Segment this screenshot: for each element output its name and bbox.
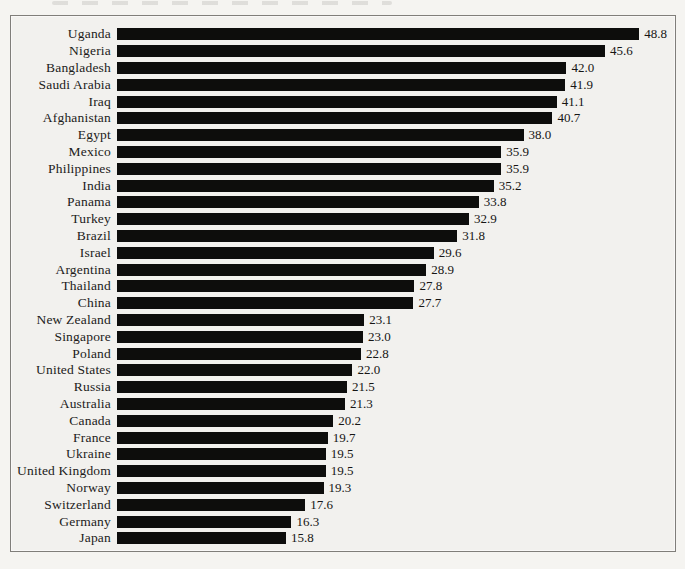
bar-track: 21.5 — [117, 379, 675, 395]
bar-row: China27.7 — [11, 295, 675, 312]
bar-row: Thailand27.8 — [11, 278, 675, 295]
bar — [117, 45, 605, 57]
bar-row: Turkey32.9 — [11, 211, 675, 228]
bar-track: 22.8 — [117, 346, 675, 362]
bar — [117, 448, 326, 460]
bar — [117, 230, 457, 242]
country-label: Iraq — [11, 94, 117, 110]
country-label: Germany — [11, 514, 117, 530]
country-label: Egypt — [11, 127, 117, 143]
bar-track: 41.1 — [117, 94, 675, 110]
bar-track: 27.8 — [117, 278, 675, 294]
country-label: Argentina — [11, 262, 117, 278]
country-label: France — [11, 430, 117, 446]
country-label: Turkey — [11, 211, 117, 227]
bar — [117, 482, 324, 494]
bar-track: 48.8 — [117, 26, 675, 42]
bar-track: 15.8 — [117, 530, 675, 546]
bar-track: 19.5 — [117, 463, 675, 479]
country-label: Nigeria — [11, 43, 117, 59]
value-label: 20.2 — [338, 413, 361, 429]
bar — [117, 314, 364, 326]
bar — [117, 432, 328, 444]
value-label: 40.7 — [557, 110, 580, 126]
bar — [117, 129, 524, 141]
bar — [117, 348, 361, 360]
bar — [117, 96, 557, 108]
bar-track: 19.5 — [117, 446, 675, 462]
bar — [117, 213, 469, 225]
bar-row: Egypt38.0 — [11, 127, 675, 144]
bar — [117, 381, 347, 393]
bar-row: Bangladesh42.0 — [11, 60, 675, 77]
value-label: 23.0 — [368, 329, 391, 345]
country-label: Thailand — [11, 278, 117, 294]
value-label: 22.8 — [366, 346, 389, 362]
country-label: Philippines — [11, 161, 117, 177]
bar-row: New Zealand23.1 — [11, 312, 675, 329]
bar-row: Japan15.8 — [11, 530, 675, 547]
value-label: 35.9 — [506, 144, 529, 160]
bar — [117, 532, 286, 544]
value-label: 28.9 — [431, 262, 454, 278]
bar-track: 45.6 — [117, 43, 675, 59]
bar — [117, 499, 305, 511]
bar — [117, 465, 326, 477]
value-label: 16.3 — [296, 514, 319, 530]
value-label: 27.8 — [419, 278, 442, 294]
bar-row: Uganda48.8 — [11, 26, 675, 43]
value-label: 48.8 — [644, 26, 667, 42]
bar-track: 38.0 — [117, 127, 675, 143]
bar-row: United Kingdom19.5 — [11, 463, 675, 480]
bar-track: 41.9 — [117, 77, 675, 93]
bar — [117, 415, 333, 427]
bar — [117, 331, 363, 343]
country-label: Afghanistan — [11, 110, 117, 126]
value-label: 33.8 — [484, 194, 507, 210]
bar-track: 17.6 — [117, 497, 675, 513]
bar-row: Norway19.3 — [11, 480, 675, 497]
bar-track: 16.3 — [117, 514, 675, 530]
bar-track: 19.3 — [117, 480, 675, 496]
bar-track: 19.7 — [117, 430, 675, 446]
value-label: 45.6 — [610, 43, 633, 59]
bar-track: 35.9 — [117, 161, 675, 177]
value-label: 42.0 — [571, 60, 594, 76]
value-label: 35.2 — [499, 178, 522, 194]
bar-track: 31.8 — [117, 228, 675, 244]
bar-track: 35.9 — [117, 144, 675, 160]
bar-track: 42.0 — [117, 60, 675, 76]
bar-row: Nigeria45.6 — [11, 43, 675, 60]
bar — [117, 112, 552, 124]
bar-track: 23.1 — [117, 312, 675, 328]
bar — [117, 163, 501, 175]
bar-row: Brazil31.8 — [11, 228, 675, 245]
bar — [117, 196, 479, 208]
country-label: Singapore — [11, 329, 117, 345]
bar-track: 27.7 — [117, 295, 675, 311]
bar-track: 23.0 — [117, 329, 675, 345]
country-label: Ukraine — [11, 446, 117, 462]
bar-row: Panama33.8 — [11, 194, 675, 211]
value-label: 21.3 — [350, 396, 373, 412]
bar-row: Mexico35.9 — [11, 144, 675, 161]
bar-row: Philippines35.9 — [11, 160, 675, 177]
bar-row: Poland22.8 — [11, 345, 675, 362]
bar — [117, 364, 352, 376]
country-label: Bangladesh — [11, 60, 117, 76]
bar-row: Iraq41.1 — [11, 93, 675, 110]
country-label: Switzerland — [11, 497, 117, 513]
value-label: 23.1 — [369, 312, 392, 328]
country-label: Brazil — [11, 228, 117, 244]
bar — [117, 280, 414, 292]
cropped-caption-remnant — [52, 1, 392, 5]
bar-track: 28.9 — [117, 262, 675, 278]
country-label: Russia — [11, 379, 117, 395]
bar-chart: Uganda48.8Nigeria45.6Bangladesh42.0Saudi… — [11, 26, 675, 551]
bar-row: Argentina28.9 — [11, 261, 675, 278]
bar-row: Germany16.3 — [11, 513, 675, 530]
bar — [117, 79, 565, 91]
value-label: 32.9 — [474, 211, 497, 227]
bar-track: 29.6 — [117, 245, 675, 261]
bar-track: 32.9 — [117, 211, 675, 227]
